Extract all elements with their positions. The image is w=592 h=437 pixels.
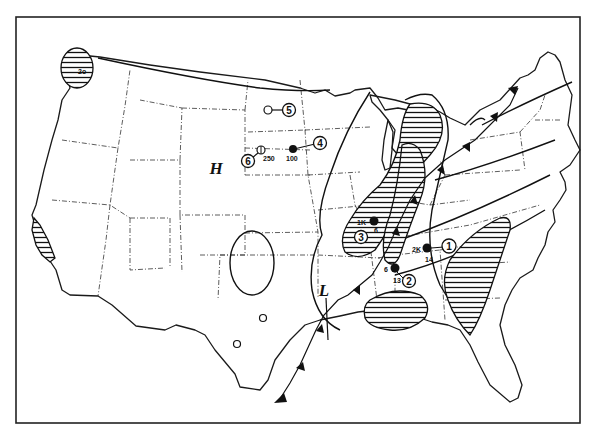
station-4: 4 100 bbox=[286, 137, 327, 163]
precip-area-deep-south bbox=[364, 291, 427, 330]
station-2: 6 13 2 bbox=[384, 264, 416, 288]
high-pressure-label: H bbox=[208, 159, 223, 178]
svg-text:6: 6 bbox=[384, 266, 388, 273]
pnw-annotation: 2o bbox=[78, 68, 86, 75]
svg-text:2: 2 bbox=[406, 276, 412, 287]
svg-text:3: 3 bbox=[358, 232, 364, 243]
svg-text:4: 4 bbox=[317, 138, 323, 149]
svg-text:2K: 2K bbox=[412, 246, 421, 253]
station-marker-texas-1 bbox=[260, 315, 267, 322]
svg-text:5: 5 bbox=[286, 105, 292, 116]
precip-area-california-coast bbox=[32, 218, 55, 262]
weather-map: H L 2o 5 4 100 6 250 1K 6 3 2K bbox=[0, 0, 592, 437]
svg-text:14: 14 bbox=[425, 256, 433, 263]
low-pressure-label: L bbox=[318, 281, 329, 300]
svg-text:100: 100 bbox=[286, 155, 298, 162]
station-6: 6 250 bbox=[242, 146, 275, 168]
precip-area-southeast bbox=[444, 218, 510, 336]
station-5: 5 bbox=[264, 104, 296, 117]
svg-text:1: 1 bbox=[446, 241, 452, 252]
svg-text:250: 250 bbox=[263, 155, 275, 162]
closed-isoline-southwest bbox=[230, 231, 274, 295]
station-marker-texas-2 bbox=[234, 341, 241, 348]
svg-text:6: 6 bbox=[374, 227, 378, 234]
station-1: 2K 14 1 bbox=[412, 239, 456, 263]
svg-text:1K: 1K bbox=[357, 219, 366, 226]
precipitation-areas bbox=[32, 48, 510, 335]
lake-michigan bbox=[382, 120, 393, 170]
svg-text:6: 6 bbox=[245, 156, 251, 167]
precip-area-pacific-northwest bbox=[61, 48, 93, 88]
svg-text:13: 13 bbox=[393, 277, 401, 284]
